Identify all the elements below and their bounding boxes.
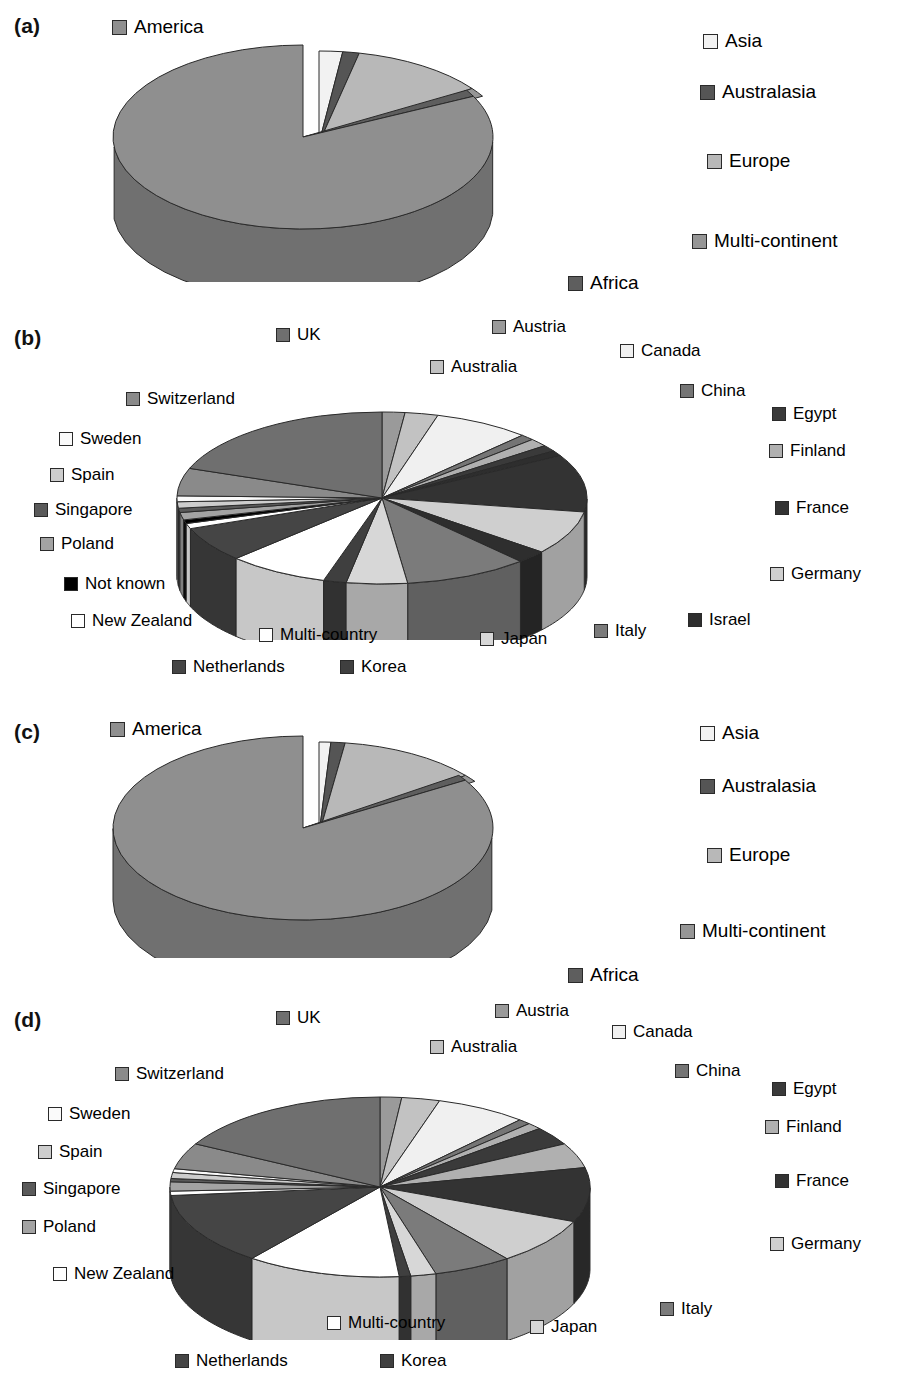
swatch-multi-country — [259, 628, 273, 642]
legend-america-c: America — [110, 720, 202, 738]
legend-canada: Canada — [620, 342, 701, 360]
swatch-switzerland-d — [115, 1067, 129, 1081]
legend-singapore-d: Singapore — [22, 1180, 121, 1198]
legend-label-egypt-d: Egypt — [793, 1080, 836, 1098]
legend-multi-country: Multi-country — [259, 626, 377, 644]
swatch-finland-d — [765, 1120, 779, 1134]
legend-netherlands: Netherlands — [172, 658, 285, 676]
legend-finland: Finland — [769, 442, 846, 460]
swatch-new-zealand — [71, 614, 85, 628]
swatch-canada-d — [612, 1025, 626, 1039]
legend-label-spain-d: Spain — [59, 1143, 102, 1161]
legend-label-china: China — [701, 382, 745, 400]
swatch-netherlands-d — [175, 1354, 189, 1368]
swatch-australasia-c — [700, 779, 715, 794]
panel-c-label: (c) — [14, 720, 40, 744]
pie-chart-d — [150, 1075, 680, 1340]
panel-d: (d) UK Austria Australia Canada China Eg… — [0, 980, 903, 1388]
legend-label-multi-continent-c: Multi-continent — [702, 922, 826, 940]
legend-label-africa: Africa — [590, 274, 639, 292]
panel-a-label: (a) — [14, 14, 40, 38]
swatch-poland — [40, 537, 54, 551]
swatch-australasia — [700, 85, 715, 100]
legend-america: America — [112, 18, 204, 36]
swatch-new-zealand-d — [53, 1267, 67, 1281]
legend-label-poland: Poland — [61, 535, 114, 553]
swatch-sweden-d — [48, 1107, 62, 1121]
swatch-australia-d — [430, 1040, 444, 1054]
swatch-korea — [340, 660, 354, 674]
panel-b: (b) UK Austria Australia Canada China Eg… — [0, 310, 903, 700]
legend-label-sweden-d: Sweden — [69, 1105, 130, 1123]
legend-canada-d: Canada — [612, 1023, 693, 1041]
swatch-japan — [480, 632, 494, 646]
legend-label-italy-d: Italy — [681, 1300, 712, 1318]
legend-label-uk-d: UK — [297, 1009, 321, 1027]
legend-australasia: Australasia — [700, 83, 816, 101]
legend-label-new-zealand: New Zealand — [92, 612, 192, 630]
legend-label-australasia-c: Australasia — [722, 777, 816, 795]
swatch-japan-d — [530, 1320, 544, 1334]
legend-label-singapore-d: Singapore — [43, 1180, 121, 1198]
legend-new-zealand: New Zealand — [71, 612, 192, 630]
swatch-uk-d — [276, 1011, 290, 1025]
legend-korea-d: Korea — [380, 1352, 446, 1370]
legend-label-finland: Finland — [790, 442, 846, 460]
legend-japan-d: Japan — [530, 1318, 597, 1336]
swatch-asia — [703, 34, 718, 49]
swatch-netherlands — [172, 660, 186, 674]
legend-not-known: Not known — [64, 575, 165, 593]
panel-b-label: (b) — [14, 326, 41, 350]
swatch-australia — [430, 360, 444, 374]
pie-chart-c — [88, 728, 658, 958]
swatch-canada — [620, 344, 634, 358]
legend-poland: Poland — [40, 535, 114, 553]
legend-label-japan-d: Japan — [551, 1318, 597, 1336]
legend-label-netherlands-d: Netherlands — [196, 1352, 288, 1370]
panel-c: (c) America Asia Australasia Europe Mult… — [0, 700, 903, 980]
swatch-multi-continent-c — [680, 924, 695, 939]
pie-chart-b — [160, 390, 680, 640]
legend-europe: Europe — [707, 152, 790, 170]
legend-germany: Germany — [770, 565, 861, 583]
swatch-america — [112, 20, 127, 35]
legend-france: France — [775, 499, 849, 517]
legend-europe-c: Europe — [707, 846, 790, 864]
swatch-germany — [770, 567, 784, 581]
legend-china-d: China — [675, 1062, 740, 1080]
legend-label-australia: Australia — [451, 358, 517, 376]
swatch-egypt-d — [772, 1082, 786, 1096]
legend-label-germany-d: Germany — [791, 1235, 861, 1253]
swatch-multi-continent — [692, 234, 707, 249]
legend-korea: Korea — [340, 658, 406, 676]
swatch-austria-d — [495, 1004, 509, 1018]
legend-label-japan: Japan — [501, 630, 547, 648]
legend-label-finland-d: Finland — [786, 1118, 842, 1136]
legend-label-asia-c: Asia — [722, 724, 759, 742]
legend-finland-d: Finland — [765, 1118, 842, 1136]
legend-australasia-c: Australasia — [700, 777, 816, 795]
legend-label-singapore: Singapore — [55, 501, 133, 519]
panel-d-label: (d) — [14, 1008, 41, 1032]
legend-japan: Japan — [480, 630, 547, 648]
swatch-france-d — [775, 1174, 789, 1188]
legend-italy: Italy — [594, 622, 646, 640]
legend-label-korea: Korea — [361, 658, 406, 676]
legend-netherlands-d: Netherlands — [175, 1352, 288, 1370]
legend-italy-d: Italy — [660, 1300, 712, 1318]
swatch-spain — [50, 468, 64, 482]
legend-label-multi-country-d: Multi-country — [348, 1314, 445, 1332]
legend-label-france: France — [796, 499, 849, 517]
legend-multi-continent: Multi-continent — [692, 232, 838, 250]
legend-label-austria-d: Austria — [516, 1002, 569, 1020]
legend-label-europe-c: Europe — [729, 846, 790, 864]
legend-label-sweden: Sweden — [80, 430, 141, 448]
legend-label-spain: Spain — [71, 466, 114, 484]
legend-multi-continent-c: Multi-continent — [680, 922, 826, 940]
swatch-italy-d — [660, 1302, 674, 1316]
legend-label-switzerland: Switzerland — [147, 390, 235, 408]
legend-label-egypt: Egypt — [793, 405, 836, 423]
legend-label-china-d: China — [696, 1062, 740, 1080]
legend-label-canada: Canada — [641, 342, 701, 360]
legend-new-zealand-d: New Zealand — [53, 1265, 174, 1283]
